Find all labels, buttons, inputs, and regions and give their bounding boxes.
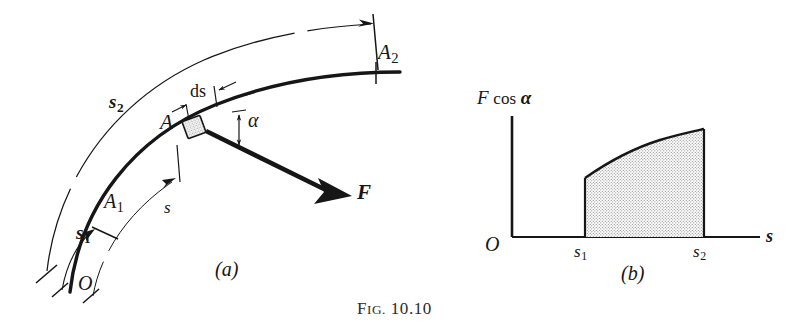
- arc-s-dimension: [83, 145, 180, 303]
- tick-A1: [92, 227, 118, 239]
- y-axis-label-force: F: [477, 87, 489, 108]
- label-element-ds: ds: [190, 82, 206, 100]
- figure-caption: FIG. 10.10: [357, 299, 432, 319]
- label-point-a2: A2: [378, 42, 399, 66]
- panel-b-label: (b): [621, 263, 644, 283]
- ds-right-arrow: [219, 82, 236, 90]
- x-tick-label-s2: s2: [693, 243, 706, 263]
- figure-drawing: [0, 0, 801, 336]
- arc-s2-arrowhead: [358, 20, 374, 27]
- arc-s-end-tick: [177, 145, 180, 182]
- force-shaft: [206, 131, 330, 192]
- label-arc-s: s: [164, 199, 171, 216]
- y-axis-label-alpha: α: [521, 87, 532, 108]
- x-tick-label-s1: s1: [574, 243, 587, 263]
- arc-s2-start-tick: [36, 265, 57, 283]
- label-arc-s1: s1: [76, 223, 91, 245]
- panel-b-origin-label: O: [485, 234, 499, 254]
- arc-s1-start-tick: [52, 283, 68, 297]
- force-vector-F: [206, 131, 352, 204]
- label-angle-alpha: α: [248, 110, 259, 130]
- alpha-upper-bound: [232, 110, 246, 112]
- force-arrowhead: [314, 178, 352, 204]
- label-point-a: A: [160, 112, 173, 133]
- panel-a-label: (a): [215, 259, 238, 279]
- y-axis-label-cos: cos: [493, 89, 516, 108]
- ds-left-arrow: [172, 105, 186, 112]
- label-origin-a: O: [78, 273, 92, 293]
- label-point-a1: A1: [104, 191, 124, 215]
- angle-alpha-indicator: [232, 110, 246, 145]
- x-axis-label: s: [766, 227, 773, 245]
- figure-caption-prefix: F: [357, 299, 367, 318]
- y-axis-label: F cos α: [477, 88, 531, 107]
- figure-10-10: s2 A2 ds A α F A1 s s1 O (a) F cos α O s…: [0, 0, 801, 336]
- arc-s-arrowhead: [162, 178, 176, 188]
- figure-caption-smallcaps: IG.: [367, 302, 386, 317]
- figure-caption-number: 10.10: [391, 299, 432, 318]
- label-arc-s2: s2: [109, 92, 124, 114]
- panel-b-drawing: [512, 116, 760, 237]
- label-force-f: F: [357, 182, 371, 203]
- arc-s2-line: [47, 24, 371, 271]
